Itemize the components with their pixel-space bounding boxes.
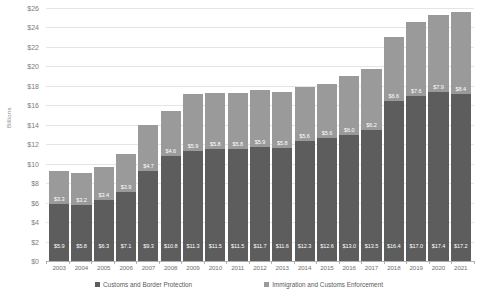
bar-segment-cbp[interactable]: $10.8 <box>161 156 181 261</box>
y-tick-label: $0 <box>31 258 39 265</box>
bar-value-label: $5.9 <box>188 143 199 149</box>
bar-segment-ice[interactable]: $5.9 <box>183 94 203 151</box>
bar-group[interactable]: $7.6$17.0 <box>406 8 426 261</box>
bar-group[interactable]: $6.6$16.4 <box>384 8 404 261</box>
bar-group[interactable]: $5.8$11.6 <box>272 8 292 261</box>
bar-value-label: $6.3 <box>99 243 110 249</box>
bar-segment-cbp[interactable]: $11.3 <box>183 151 203 261</box>
y-tick-label: $26 <box>27 5 39 12</box>
bar-segment-ice[interactable]: $3.4 <box>94 167 114 200</box>
bar-value-label: $8.4 <box>456 86 467 92</box>
bar-segment-ice[interactable]: $6.2 <box>361 69 381 129</box>
bar-group[interactable]: $6.2$13.5 <box>361 8 381 261</box>
bar-segment-ice[interactable]: $5.6 <box>295 87 315 141</box>
bar-value-label: $11.5 <box>209 243 222 249</box>
bar-segment-ice[interactable]: $3.3 <box>49 171 69 203</box>
bar-group[interactable]: $3.4$6.3 <box>94 8 114 261</box>
bar-segment-cbp[interactable]: $9.3 <box>138 171 158 261</box>
bar-value-label: $4.7 <box>143 163 154 169</box>
legend-item[interactable]: Immigration and Customs Enforcement <box>264 281 383 288</box>
x-axis-line <box>46 261 474 262</box>
x-tick-label: 2021 <box>451 264 471 271</box>
bar-value-label: $6.0 <box>344 127 355 133</box>
bar-segment-cbp[interactable]: $17.2 <box>451 94 471 261</box>
bar-group[interactable]: $5.8$11.5 <box>228 8 248 261</box>
bar-value-label: $12.3 <box>298 243 312 249</box>
bar-value-label: $5.8 <box>210 141 221 147</box>
bar-group[interactable]: $5.9$11.3 <box>183 8 203 261</box>
bar-segment-cbp[interactable]: $11.6 <box>272 148 292 261</box>
bar-value-label: $11.3 <box>186 243 199 249</box>
bar-segment-ice[interactable]: $5.8 <box>228 93 248 149</box>
bar-value-label: $11.5 <box>231 243 244 249</box>
y-tick-label: $14 <box>27 121 39 128</box>
bar-value-label: $7.1 <box>121 243 132 249</box>
x-tick-label: 2005 <box>94 264 114 271</box>
bar-segment-ice[interactable]: $8.4 <box>451 12 471 94</box>
bar-segment-cbp[interactable]: $13.5 <box>361 130 381 261</box>
bar-segment-cbp[interactable]: $13.0 <box>339 135 359 262</box>
bar-group[interactable]: $3.3$5.9 <box>49 8 69 261</box>
legend-item[interactable]: Customs and Border Protection <box>95 281 192 288</box>
x-tick-label: 2010 <box>205 264 225 271</box>
bar-segment-ice[interactable]: $5.6 <box>317 84 337 138</box>
bar-segment-cbp[interactable]: $11.5 <box>205 149 225 261</box>
bar-segment-ice[interactable]: $5.9 <box>250 90 270 147</box>
x-tick-label: 2016 <box>339 264 359 271</box>
bar-value-label: $16.4 <box>387 243 401 249</box>
bar-value-label: $3.3 <box>54 196 65 202</box>
bar-segment-cbp[interactable]: $7.1 <box>116 192 136 261</box>
bar-value-label: $13.0 <box>342 243 356 249</box>
bar-group[interactable]: $5.8$11.5 <box>205 8 225 261</box>
bar-segment-ice[interactable]: $3.9 <box>116 154 136 192</box>
bar-segment-ice[interactable]: $6.6 <box>384 37 404 101</box>
bar-segment-ice[interactable]: $3.2 <box>71 173 91 204</box>
bar-group[interactable]: $6.0$13.0 <box>339 8 359 261</box>
bar-value-label: $17.2 <box>454 243 468 249</box>
bar-segment-ice[interactable]: $4.7 <box>138 125 158 171</box>
bar-value-label: $3.2 <box>76 197 87 203</box>
x-axis-tick-labels: 2003200420052006200720082009201020112012… <box>46 264 474 271</box>
bar-segment-cbp[interactable]: $5.9 <box>49 204 69 261</box>
bar-segment-cbp[interactable]: $11.7 <box>250 147 270 261</box>
bar-segment-ice[interactable]: $5.8 <box>272 92 292 148</box>
bar-segment-cbp[interactable]: $17.4 <box>428 92 448 261</box>
bar-group[interactable]: $4.6$10.8 <box>161 8 181 261</box>
bar-value-label: $6.6 <box>389 93 400 99</box>
bar-value-label: $5.8 <box>76 243 87 249</box>
bar-value-label: $3.4 <box>99 192 110 198</box>
bar-group[interactable]: $3.9$7.1 <box>116 8 136 261</box>
legend-swatch-icon <box>264 282 269 287</box>
bar-value-label: $5.6 <box>299 133 310 139</box>
bar-value-label: $5.6 <box>322 130 333 136</box>
bar-value-label: $11.6 <box>276 243 289 249</box>
bar-group[interactable]: $5.9$11.7 <box>250 8 270 261</box>
bar-segment-cbp[interactable]: $6.3 <box>94 200 114 261</box>
bar-segment-cbp[interactable]: $5.8 <box>71 205 91 261</box>
bar-value-label: $4.6 <box>165 148 176 154</box>
bar-segment-ice[interactable]: $7.9 <box>428 15 448 92</box>
bar-segment-cbp[interactable]: $16.4 <box>384 101 404 261</box>
bar-value-label: $5.9 <box>54 243 65 249</box>
bar-group[interactable]: $8.4$17.2 <box>451 8 471 261</box>
bar-group[interactable]: $5.6$12.6 <box>317 8 337 261</box>
bar-segment-ice[interactable]: $4.6 <box>161 111 181 156</box>
bar-group[interactable]: $3.2$5.8 <box>71 8 91 261</box>
bar-segment-ice[interactable]: $5.8 <box>205 93 225 149</box>
bar-segment-ice[interactable]: $7.6 <box>406 22 426 96</box>
x-tick-label: 2004 <box>71 264 91 271</box>
bar-group[interactable]: $5.6$12.3 <box>295 8 315 261</box>
bar-segment-cbp[interactable]: $11.5 <box>228 149 248 261</box>
bar-segment-cbp[interactable]: $17.0 <box>406 96 426 261</box>
x-tick-label: 2009 <box>183 264 203 271</box>
y-tick-label: $8 <box>31 180 39 187</box>
bar-segment-ice[interactable]: $6.0 <box>339 76 359 134</box>
bar-value-label: $11.7 <box>253 243 266 249</box>
bar-segment-cbp[interactable]: $12.3 <box>295 141 315 261</box>
bar-group[interactable]: $7.9$17.4 <box>428 8 448 261</box>
y-tick-label: $2 <box>31 238 39 245</box>
bar-segment-cbp[interactable]: $12.6 <box>317 138 337 261</box>
bar-value-label: $7.6 <box>411 88 422 94</box>
legend-swatch-icon <box>95 282 100 287</box>
bar-group[interactable]: $4.7$9.3 <box>138 8 158 261</box>
